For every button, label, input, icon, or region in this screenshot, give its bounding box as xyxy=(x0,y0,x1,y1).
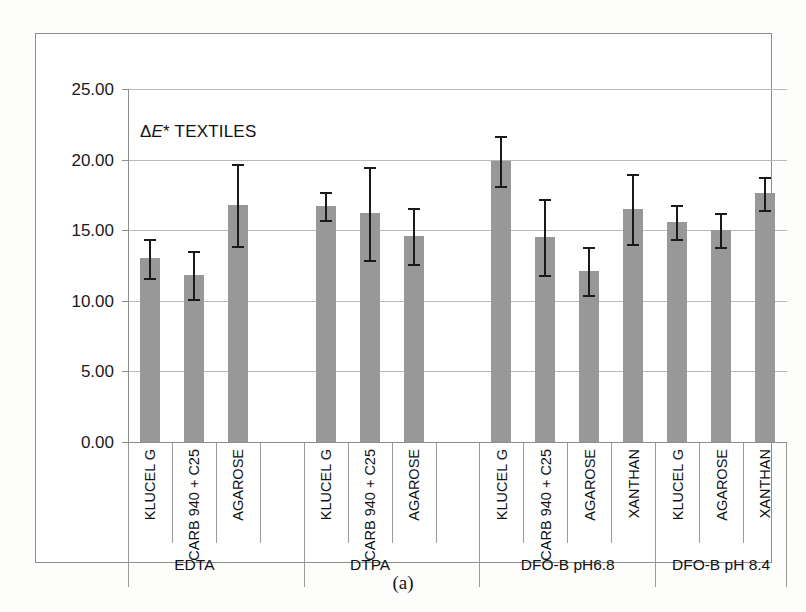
error-bar-line xyxy=(588,247,590,295)
y-axis-line xyxy=(128,89,129,442)
category-cell: KLUCEL G xyxy=(128,443,172,543)
y-axis-tick-label: 25.00 xyxy=(36,81,114,98)
category-cell: KLUCEL G xyxy=(655,443,699,543)
category-label: XANTHAN xyxy=(757,449,773,518)
category-cell: XANTHAN xyxy=(743,443,787,543)
category-label: KLUCEL G xyxy=(318,449,334,520)
error-bar-cap-top xyxy=(495,136,507,138)
bar xyxy=(404,236,424,442)
y-axis-tick-label: 5.00 xyxy=(36,363,114,380)
error-bar-cap-bottom xyxy=(408,264,420,266)
category-cell: AGAROSE xyxy=(567,443,611,543)
category-label: KLUCEL G xyxy=(142,449,158,520)
chart-title-delta: Δ xyxy=(140,122,152,141)
error-bar-line xyxy=(632,174,634,245)
error-bar-cap-top xyxy=(320,192,332,194)
error-bar-cap-top xyxy=(583,247,595,249)
chart-title: ΔE* TEXTILES xyxy=(140,122,256,142)
category-cell: CARB 940 + C25 xyxy=(348,443,392,543)
error-bar-cap-top xyxy=(715,213,727,215)
error-bar-line xyxy=(500,136,502,187)
error-bar-cap-bottom xyxy=(188,299,200,301)
category-label: AGAROSE xyxy=(230,449,246,521)
error-bar-line xyxy=(676,205,678,239)
category-label: XANTHAN xyxy=(626,449,642,518)
error-bar-line xyxy=(544,199,546,275)
error-bar-line xyxy=(369,167,371,260)
error-bar-cap-bottom xyxy=(539,275,551,277)
error-bar-cap-bottom xyxy=(583,295,595,297)
error-bar-cap-top xyxy=(188,251,200,253)
error-bar-cap-top xyxy=(671,205,683,207)
category-cell: KLUCEL G xyxy=(479,443,523,543)
error-bar-line xyxy=(325,192,327,220)
y-axis-labels: 25.0020.0015.0010.005.000.00 xyxy=(36,34,120,612)
gridline xyxy=(128,160,787,161)
figure-caption: (a) xyxy=(0,572,806,594)
category-label: AGAROSE xyxy=(406,449,422,521)
figure-frame: 25.0020.0015.0010.005.000.00 ΔE* TEXTILE… xyxy=(35,33,772,563)
category-cell: AGAROSE xyxy=(699,443,743,543)
category-cell-empty xyxy=(260,443,304,543)
category-label: AGAROSE xyxy=(582,449,598,521)
category-cell: XANTHAN xyxy=(611,443,655,543)
category-label: AGAROSE xyxy=(714,449,730,521)
category-cell: KLUCEL G xyxy=(304,443,348,543)
error-bar-cap-top xyxy=(144,239,156,241)
error-bar-line xyxy=(413,208,415,264)
error-bar-line xyxy=(764,177,766,211)
bar xyxy=(667,222,687,442)
y-axis-tick-label: 10.00 xyxy=(36,293,114,310)
error-bar-cap-bottom xyxy=(320,220,332,222)
error-bar-cap-bottom xyxy=(759,210,771,212)
category-cell-empty xyxy=(436,443,480,543)
bar xyxy=(140,258,160,442)
error-bar-cap-bottom xyxy=(232,246,244,248)
category-cell: AGAROSE xyxy=(392,443,436,543)
bar xyxy=(755,193,775,442)
bar xyxy=(711,230,731,442)
y-axis-tick-label: 0.00 xyxy=(36,434,114,451)
bar xyxy=(491,161,511,442)
y-axis-tick-label: 15.00 xyxy=(36,222,114,239)
error-bar-line xyxy=(720,213,722,247)
category-cell: CARB 940 + C25 xyxy=(172,443,216,543)
error-bar-cap-bottom xyxy=(144,278,156,280)
error-bar-cap-bottom xyxy=(715,247,727,249)
error-bar-cap-bottom xyxy=(364,260,376,262)
category-cell: AGAROSE xyxy=(216,443,260,543)
category-label: KLUCEL G xyxy=(670,449,686,520)
error-bar-cap-top xyxy=(539,199,551,201)
error-bar-cap-bottom xyxy=(495,186,507,188)
category-label-band: KLUCEL GCARB 940 + C25AGAROSEKLUCEL GCAR… xyxy=(128,443,787,543)
error-bar-cap-bottom xyxy=(627,244,639,246)
bar xyxy=(316,206,336,442)
error-bar-cap-top xyxy=(627,174,639,176)
chart-title-e: E xyxy=(152,122,164,141)
chart-title-rest: * TEXTILES xyxy=(163,122,256,141)
gridline xyxy=(128,89,787,90)
error-bar-cap-top xyxy=(232,164,244,166)
category-cell: CARB 940 + C25 xyxy=(523,443,567,543)
error-bar-cap-top xyxy=(364,167,376,169)
error-bar-cap-bottom xyxy=(671,239,683,241)
error-bar-cap-top xyxy=(408,208,420,210)
error-bar-line xyxy=(237,164,239,246)
category-label: KLUCEL G xyxy=(494,449,510,520)
error-bar-line xyxy=(193,251,195,299)
y-axis-tick-label: 20.00 xyxy=(36,152,114,169)
error-bar-line xyxy=(149,239,151,279)
error-bar-cap-top xyxy=(759,177,771,179)
